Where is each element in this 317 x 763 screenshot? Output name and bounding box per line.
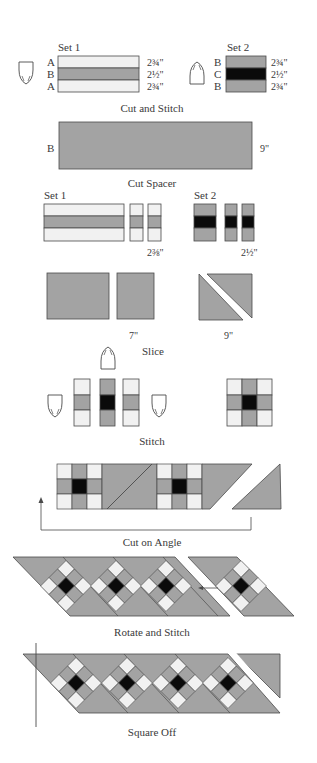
spacer-piece [47,273,109,319]
set1-row-letter: A [47,80,55,92]
subcut-set2-width: 2½" [241,247,258,258]
set1-segment [130,204,143,241]
quilt-instruction-diagram: Set 1 A B A 2¾" 2½" 2¾" Set 2 B C B 2¾" … [0,0,317,763]
set2-row-width: 2½" [271,69,288,80]
spacer-square [117,273,154,319]
step-cut-on-angle: Cut on Angle [39,464,282,548]
step-subcut: Set 1 2⅜" Set 2 2 [44,189,258,258]
set2-row-width: 2¾" [271,81,288,92]
strip-light [58,80,139,92]
caption-slice: Slice [142,345,164,357]
step-cut-and-stitch: Set 1 A B A 2¾" 2½" 2¾" Set 2 B C B 2¾" … [19,41,288,114]
column-dark [100,379,115,426]
column-light [123,379,139,426]
subcut-set2-title: Set 2 [194,189,216,201]
set1-row-width: 2¾" [147,57,164,68]
step-stitch: Stitch [48,347,272,447]
caption-square-off: Square Off [128,726,177,738]
set2-row-letter: B [214,56,221,68]
caption-cut-spacer: Cut Spacer [128,177,177,189]
subcut-set1-title: Set 1 [44,189,66,201]
strip-medium [226,56,266,68]
step-rotate-and-stitch: Rotate and Stitch [13,557,294,638]
set1-row-width: 2¾" [147,81,164,92]
set2-row-letter: C [214,68,221,80]
set1-title: Set 1 [58,41,80,53]
set2-segment-wide [194,204,216,241]
caption-cut-and-stitch: Cut and Stitch [121,102,184,114]
iron-down-icon [152,395,166,417]
set2-row-letter: B [214,80,221,92]
set2-title: Set 2 [227,41,249,53]
set2-row-width: 2¾" [271,57,288,68]
subcut-set1-width: 2⅜" [147,247,164,258]
set1-row-letter: B [47,68,54,80]
strip-medium [226,80,266,92]
set1-segment [148,204,161,241]
set2-segment [225,204,237,241]
step-cut-spacer: B 9" Cut Spacer [47,122,269,189]
triangle-size: 9" [224,330,233,341]
caption-cut-on-angle: Cut on Angle [123,536,182,548]
set1-row-width: 2½" [147,69,164,80]
iron-up-icon [190,62,204,84]
step-square-off: Square Off [0,643,286,738]
ninepatch-block [157,464,202,509]
spacer-strip [59,122,252,169]
strip-medium [58,68,139,80]
ninepatch-block [227,379,272,426]
arrow-head-icon [39,497,44,503]
spacer-letter: B [47,142,54,154]
ninepatch-block [57,464,102,509]
iron-down-icon [48,395,62,417]
column-light [74,379,90,426]
caption-rotate-and-stitch: Rotate and Stitch [114,626,190,638]
iron-down-icon [19,62,33,84]
set1-row-letter: A [47,56,55,68]
strip-light [58,56,139,68]
strip-dark [226,68,266,80]
step-slice: 7" 9" Slice [47,273,252,357]
iron-up-icon [101,347,115,369]
caption-stitch: Stitch [139,435,165,447]
spacer-width: 9" [260,143,269,154]
square-size: 7" [129,330,138,341]
set2-segment [242,204,254,241]
